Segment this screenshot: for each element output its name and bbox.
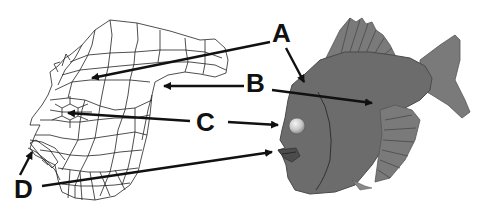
callout-A: A	[92, 18, 304, 82]
rendered-fish	[278, 18, 470, 194]
label-d: D	[14, 174, 33, 204]
label-a: A	[272, 18, 291, 48]
pectoral-fin	[375, 105, 420, 182]
arrow-d-fish	[42, 152, 272, 186]
arrow-c-fish	[228, 122, 278, 125]
arrow-a-fish	[286, 48, 304, 82]
diagram-canvas: A B C D	[0, 0, 492, 214]
callout-D: D	[14, 152, 272, 204]
arrow-c-wireframe	[68, 113, 190, 121]
label-b: B	[246, 68, 265, 98]
arrow-d-wireframe	[20, 152, 32, 175]
fish-eye	[289, 118, 305, 134]
label-c: C	[196, 107, 215, 137]
